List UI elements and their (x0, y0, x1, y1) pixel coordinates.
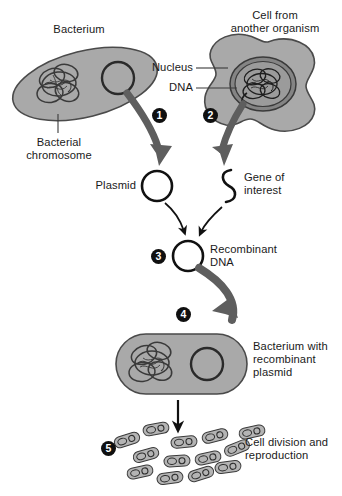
recombinant-dna-label-line1: Recombinant (210, 243, 277, 256)
plasmid-to-recombinant-arrow (165, 203, 184, 231)
step-badge-4: 4 (176, 307, 191, 322)
gene-of-interest-structure (223, 170, 235, 202)
step-badge-3: 3 (151, 249, 166, 264)
nucleus-label: Nucleus (131, 61, 193, 74)
cell-division-label-line1: Cell division and (245, 436, 328, 449)
eukaryotic-cell (205, 34, 315, 131)
bacterium-recombinant-label-line3: plasmid (253, 366, 292, 379)
step-badge-2: 2 (203, 108, 218, 123)
bacterium-recombinant-label-line2: recombinant (253, 353, 316, 366)
step-4-arrow (199, 268, 238, 320)
gene-to-recombinant-arrow (201, 207, 222, 232)
step-badge-1: 1 (152, 108, 167, 123)
bacterial-colony (113, 421, 266, 485)
plasmid-label: Plasmid (75, 179, 136, 192)
gene-of-interest-label-line2: interest (244, 184, 282, 197)
dna-label: DNA (131, 81, 193, 94)
eukaryotic-cell-label-line1: Cell from (214, 9, 336, 22)
bacterial-chromosome-label-line1: Bacterial (14, 136, 104, 149)
gene-of-interest-label-line1: Gene of (244, 171, 285, 184)
eukaryotic-cell-label-line2: another organism (214, 22, 336, 35)
step-1-arrow (127, 93, 172, 166)
recombinant-dna-label-line2: DNA (210, 256, 234, 269)
bacterial-chromosome-label-line2: chromosome (14, 149, 104, 162)
plasmid-structure (142, 171, 172, 201)
bacterium-with-recombinant-plasmid (116, 334, 247, 394)
recombinant-dna-diagram: Bacterium Cell from another organism Nuc… (0, 0, 342, 496)
bacterium-recombinant-label-line1: Bacterium with (253, 340, 328, 353)
bacterium-label: Bacterium (24, 23, 134, 36)
step-badge-5: 5 (101, 441, 116, 456)
cell-division-label-line2: reproduction (245, 449, 308, 462)
